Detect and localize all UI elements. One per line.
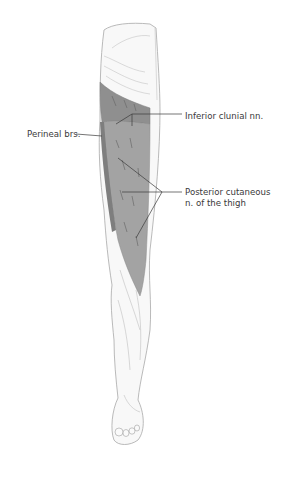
label-posterior-cutaneous-nerve: Posterior cutaneous n. of the thigh [185,187,270,209]
label-posterior-line2: n. of the thigh [185,198,270,209]
label-perineal-branches: Perineal brs. [27,129,80,140]
label-inferior-clunial-nerves: Inferior clunial nn. [185,111,263,122]
diagram-canvas: Perineal brs. Inferior clunial nn. Poste… [0,0,292,501]
leg-illustration [0,0,292,501]
label-posterior-line1: Posterior cutaneous [185,187,270,198]
